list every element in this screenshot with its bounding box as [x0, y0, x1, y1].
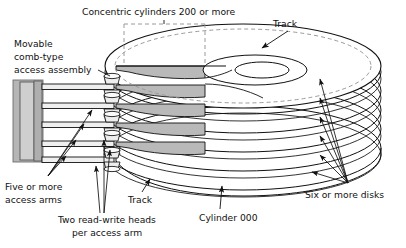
label-track-top: Track — [272, 18, 298, 29]
label-track-bottom: Track — [127, 194, 153, 205]
label-six-or-more-disks: Six or more disks — [305, 189, 384, 200]
access-arm-2 — [42, 103, 114, 109]
access-arm-5 — [42, 157, 114, 163]
disk-pack-diagram: Concentric cylinders 200 or more Track M… — [0, 0, 406, 248]
access-arms — [42, 84, 114, 163]
assembly-rail — [20, 82, 34, 160]
diagram-canvas: Concentric cylinders 200 or more Track M… — [0, 0, 406, 248]
label-movable-assembly-line2: comb-type — [14, 51, 64, 62]
label-access-arms-line1: Five or more — [5, 181, 63, 192]
label-movable-assembly-line3: access assembly — [14, 64, 92, 75]
label-access-arms-line2: access arms — [5, 194, 62, 205]
label-concentric-cylinders: Concentric cylinders 200 or more — [82, 6, 236, 17]
label-movable-assembly-line1: Movable — [14, 38, 53, 49]
label-heads-line1: Two read-write heads — [57, 214, 156, 225]
label-cylinder-000: Cylinder 000 — [199, 212, 258, 223]
assembly-carriage — [34, 81, 42, 161]
label-heads-line2: per access arm — [72, 227, 142, 238]
access-assembly — [13, 80, 43, 162]
access-arm-4 — [42, 141, 114, 147]
access-arm-3 — [42, 122, 114, 128]
spindle-hub-inner — [235, 62, 289, 78]
access-arm-1 — [42, 84, 114, 90]
